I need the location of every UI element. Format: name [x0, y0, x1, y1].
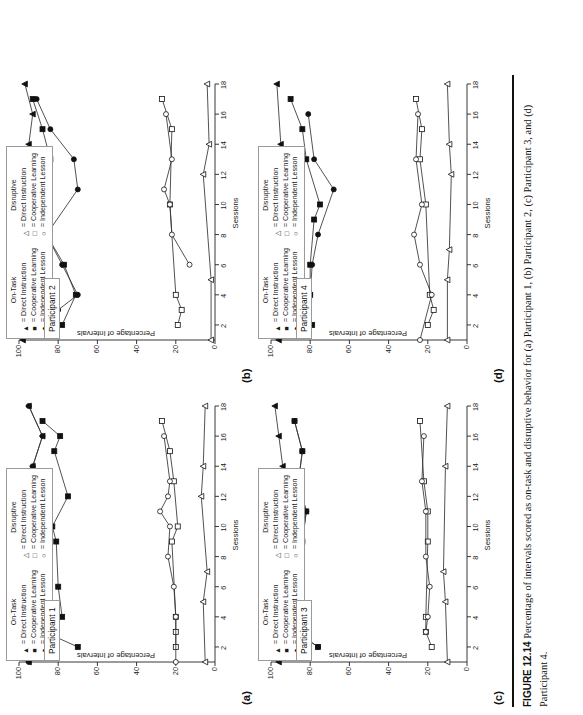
- open-square-icon: □: [31, 230, 38, 237]
- legend-label: = Cooperative Learning: [30, 153, 39, 227]
- x-tick-label: 8: [471, 556, 480, 560]
- legend-label: = Cooperative Learning: [282, 570, 291, 644]
- legend-item: ■= Cooperative Learning: [30, 248, 39, 332]
- y-tick-label: 80: [305, 667, 314, 675]
- legend-label: = Cooperative Learning: [282, 153, 291, 227]
- y-tick-label: 20: [170, 345, 179, 353]
- legend-header-on-task: On-Task: [10, 570, 19, 654]
- figure-number: FIGURE 12.14: [522, 641, 533, 707]
- open-circle-icon: ○: [40, 552, 47, 559]
- x-tick-label: 10: [471, 201, 480, 209]
- filled-triangle-icon: ▲: [22, 325, 29, 332]
- legend-column-disruptive: Disruptive △= Direct Instruction □= Coop…: [10, 475, 48, 559]
- open-square-icon: □: [283, 552, 290, 559]
- filled-square-icon: ■: [283, 647, 290, 654]
- panel-d: On-Task ▲= Direct Instruction ■= Coopera…: [256, 69, 506, 385]
- legend-item: ○= Independent Lesson: [39, 475, 48, 559]
- legend-label: = Cooperative Learning: [30, 248, 39, 322]
- panel-letter-b: (b): [240, 368, 252, 383]
- y-axis-title: Percentage of Intervals: [329, 329, 407, 338]
- series-open-triangle: [198, 403, 209, 665]
- legend-label: = Direct Instruction: [20, 168, 29, 227]
- x-tick-label: 4: [219, 294, 228, 298]
- legend-header-on-task: On-Task: [262, 248, 271, 332]
- legend-item: △= Direct Instruction: [20, 153, 29, 237]
- x-tick-label: 18: [471, 81, 480, 89]
- x-axis-title: Sessions: [483, 520, 492, 551]
- y-tick-label: 40: [131, 345, 140, 353]
- x-tick-label: 16: [471, 111, 480, 119]
- x-axis-title: Sessions: [483, 198, 492, 229]
- participant-label-a: Participant 1: [44, 600, 60, 661]
- x-tick-label: 4: [219, 616, 228, 620]
- filled-square-icon: ■: [283, 325, 290, 332]
- legend-label: = Direct Instruction: [20, 585, 29, 644]
- panel-letter-d: (d): [492, 368, 504, 383]
- legend-column-disruptive: Disruptive △= Direct Instruction □= Coop…: [262, 153, 300, 237]
- panel-b: On-Task ▲= Direct Instruction ■= Coopera…: [4, 69, 254, 385]
- legend-label: = Independent Lesson: [39, 479, 48, 549]
- legend-column-on-task: On-Task ▲= Direct Instruction ■= Coopera…: [10, 570, 48, 654]
- legend-label: = Cooperative Learning: [282, 248, 291, 322]
- legend-label: = Cooperative Learning: [282, 475, 291, 549]
- legend-item: ▲= Direct Instruction: [20, 570, 29, 654]
- y-tick-label: 100: [266, 667, 275, 679]
- x-tick-label: 16: [219, 111, 228, 119]
- y-tick-label: 60: [92, 667, 101, 675]
- legend-item: ▲= Direct Instruction: [20, 248, 29, 332]
- x-tick-label: 2: [219, 324, 228, 328]
- legend-header-disruptive: Disruptive: [10, 475, 19, 559]
- filled-triangle-icon: ▲: [22, 647, 29, 654]
- filled-triangle-icon: ▲: [274, 325, 281, 332]
- panel-letter-c: (c): [492, 691, 504, 705]
- y-axis-title: Percentage of Intervals: [77, 329, 155, 338]
- x-tick-label: 8: [471, 234, 480, 238]
- series-open-triangle: [440, 403, 450, 665]
- x-tick-label: 8: [219, 234, 228, 238]
- legend-label: = Independent Lesson: [291, 479, 300, 549]
- y-tick-label: 20: [422, 345, 431, 353]
- legend-item: ○= Independent Lesson: [39, 153, 48, 237]
- legend-item: △= Direct Instruction: [272, 475, 281, 559]
- x-tick-label: 10: [471, 523, 480, 531]
- x-tick-label: 6: [219, 264, 228, 268]
- x-tick-label: 10: [219, 201, 228, 209]
- y-tick-label: 80: [305, 345, 314, 353]
- x-tick-label: 2: [219, 646, 228, 650]
- legend-header-on-task: On-Task: [10, 248, 19, 332]
- panel-a: On-Task ▲= Direct Instruction ■= Coopera…: [4, 391, 254, 707]
- y-tick-label: 60: [344, 667, 353, 675]
- y-tick-label: 0: [462, 345, 471, 349]
- legend-column-on-task: On-Task ▲= Direct Instruction ■= Coopera…: [262, 570, 300, 654]
- y-tick-label: 80: [53, 345, 62, 353]
- legend-item: ○= Independent Lesson: [291, 475, 300, 559]
- open-triangle-icon: △: [274, 230, 281, 237]
- x-tick-label: 16: [471, 433, 480, 441]
- legend-column-on-task: On-Task ▲= Direct Instruction ■= Coopera…: [10, 248, 48, 332]
- x-tick-label: 14: [471, 463, 480, 471]
- y-tick-label: 40: [383, 345, 392, 353]
- participant-label-b: Participant 2: [44, 278, 60, 339]
- open-triangle-icon: △: [22, 230, 29, 237]
- figure-caption-text: Percentage of intervals scored as on-tas…: [522, 105, 549, 707]
- x-tick-label: 14: [219, 141, 228, 149]
- legend-label: = Direct Instruction: [272, 263, 281, 322]
- x-axis-title: Sessions: [231, 520, 240, 551]
- figure-page: On-Task ▲= Direct Instruction ■= Coopera…: [0, 0, 583, 715]
- figure-caption: FIGURE 12.14 Percentage of intervals sco…: [520, 75, 551, 707]
- legend-item: □= Cooperative Learning: [30, 153, 39, 237]
- x-tick-label: 6: [471, 264, 480, 268]
- y-tick-label: 40: [131, 667, 140, 675]
- y-tick-label: 40: [383, 667, 392, 675]
- open-triangle-icon: △: [22, 552, 29, 559]
- x-tick-label: 18: [219, 403, 228, 411]
- y-tick-label: 100: [266, 345, 275, 357]
- legend-label: = Independent Lesson: [291, 157, 300, 227]
- caption-rule: [512, 75, 514, 707]
- x-tick-label: 12: [219, 493, 228, 501]
- legend-item: ○= Independent Lesson: [291, 153, 300, 237]
- x-tick-label: 4: [471, 294, 480, 298]
- open-triangle-icon: △: [274, 552, 281, 559]
- x-tick-label: 2: [471, 646, 480, 650]
- y-tick-label: 100: [14, 667, 23, 679]
